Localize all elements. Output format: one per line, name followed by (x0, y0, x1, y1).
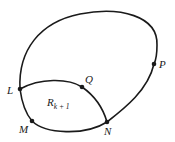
point-M (30, 119, 35, 124)
region-label: Rk + 1 (47, 97, 70, 108)
label-N: N (104, 126, 111, 137)
point-L (18, 87, 23, 92)
label-P: P (159, 59, 166, 70)
point-P (152, 62, 157, 67)
label-M: M (19, 124, 28, 135)
outer-curve (20, 11, 157, 122)
diagram-canvas: L M N Q P Rk + 1 (0, 0, 175, 142)
point-Q (80, 85, 85, 90)
label-Q: Q (85, 74, 93, 85)
region-label-main: R (47, 96, 54, 108)
diagram-svg (0, 0, 175, 142)
label-L: L (7, 85, 13, 96)
point-N (105, 120, 110, 125)
region-label-sub: k + 1 (54, 102, 70, 111)
